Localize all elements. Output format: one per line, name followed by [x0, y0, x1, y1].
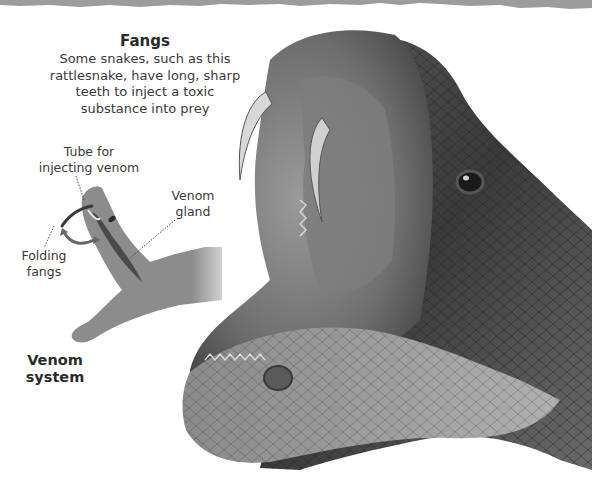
rattlesnake-illustration	[0, 0, 592, 486]
glottis	[264, 366, 292, 390]
snake-eye	[457, 171, 483, 193]
